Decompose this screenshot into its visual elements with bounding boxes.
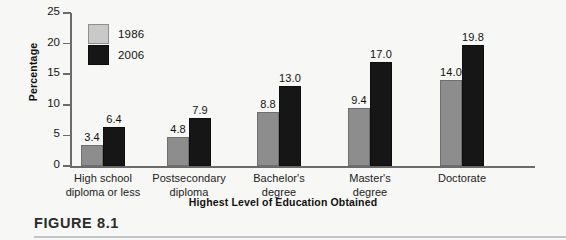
bar-value-label: 6.4 bbox=[96, 113, 132, 125]
bar-value-label: 7.9 bbox=[182, 104, 218, 116]
caption-divider bbox=[34, 236, 566, 238]
bar-value-label: 19.8 bbox=[455, 31, 491, 43]
x-axis-line bbox=[70, 166, 535, 168]
bars-layer: 3.46.44.87.98.813.09.417.014.019.8 bbox=[0, 0, 566, 166]
legend-item-2006: 2006 bbox=[88, 44, 144, 65]
legend-item-1986: 1986 bbox=[88, 23, 144, 44]
bar-1986-4 bbox=[440, 80, 462, 166]
bar-1986-2 bbox=[257, 112, 279, 166]
figure-caption: FIGURE 8.1 bbox=[34, 215, 119, 231]
legend-label-1986: 1986 bbox=[118, 28, 144, 40]
x-axis-title: Highest Level of Education Obtained bbox=[0, 196, 566, 208]
category-label-4: Doctorate bbox=[410, 172, 514, 186]
bar-2006-2 bbox=[279, 86, 301, 166]
chart-legend: 1986 2006 bbox=[88, 23, 144, 65]
bar-1986-0 bbox=[81, 145, 103, 166]
figure-8-1: Percentage 0510152025 3.46.44.87.98.813.… bbox=[0, 0, 566, 240]
bar-value-label: 17.0 bbox=[363, 48, 399, 60]
legend-swatch-1986-icon bbox=[88, 24, 109, 44]
bar-1986-1 bbox=[167, 137, 189, 166]
bar-value-label: 13.0 bbox=[272, 72, 308, 84]
bar-2006-3 bbox=[370, 62, 392, 166]
bar-chart: Percentage 0510152025 3.46.44.87.98.813.… bbox=[0, 0, 566, 200]
legend-swatch-2006-icon bbox=[88, 45, 109, 65]
legend-label-2006: 2006 bbox=[118, 49, 144, 61]
category-label-3: Master's degree bbox=[318, 172, 422, 199]
category-label-2: Bachelor's degree bbox=[227, 172, 331, 199]
bar-1986-3 bbox=[348, 108, 370, 166]
bar-2006-0 bbox=[103, 127, 125, 166]
category-label-1: Postsecondary diploma bbox=[137, 172, 241, 199]
bar-2006-4 bbox=[462, 45, 484, 166]
bar-2006-1 bbox=[189, 118, 211, 166]
